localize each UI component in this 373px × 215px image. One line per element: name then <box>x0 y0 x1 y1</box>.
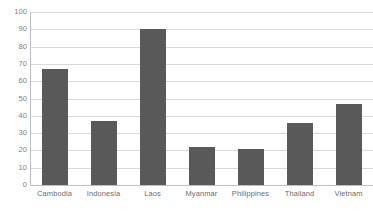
y-axis-tick-label: 80 <box>1 43 27 51</box>
bar[interactable] <box>189 147 215 185</box>
x-axis-baseline <box>30 185 373 186</box>
bar[interactable] <box>140 29 166 185</box>
bar-slot <box>324 12 373 185</box>
bar-slot <box>128 12 177 185</box>
bar-slot <box>226 12 275 185</box>
bar[interactable] <box>336 104 362 185</box>
y-axis-tick-label: 100 <box>1 8 27 16</box>
x-axis-category-labels: CambodiaIndonesiaLaosMyanmarPhilippinesT… <box>30 190 373 208</box>
y-axis-tick-label: 20 <box>1 147 27 155</box>
x-axis-category-label: Thailand <box>275 190 324 198</box>
x-axis-category-label: Myanmar <box>177 190 226 198</box>
bar-slot <box>30 12 79 185</box>
y-axis-tick-labels: 1009080706050403020100 <box>0 12 27 185</box>
y-axis-tick-label: 10 <box>1 164 27 172</box>
bar[interactable] <box>91 121 117 185</box>
y-axis-tick-label: 50 <box>1 95 27 103</box>
bars-layer <box>30 12 373 185</box>
y-axis-tick-label: 60 <box>1 77 27 85</box>
y-axis-tick-label: 40 <box>1 112 27 120</box>
x-axis-category-label: Indonesia <box>79 190 128 198</box>
y-axis-tick-label: 30 <box>1 129 27 137</box>
y-axis-tick-label: 0 <box>1 181 27 189</box>
y-axis-tick-label: 70 <box>1 60 27 68</box>
x-axis-category-label: Cambodia <box>30 190 79 198</box>
x-axis-category-label: Laos <box>128 190 177 198</box>
x-axis-category-label: Vietnam <box>324 190 373 198</box>
bar-chart: 1009080706050403020100 CambodiaIndonesia… <box>0 0 373 215</box>
y-axis-tick-label: 90 <box>1 26 27 34</box>
bar-slot <box>79 12 128 185</box>
bar-slot <box>275 12 324 185</box>
bar[interactable] <box>42 69 68 185</box>
bar[interactable] <box>287 123 313 185</box>
x-axis-category-label: Philippines <box>226 190 275 198</box>
bar-slot <box>177 12 226 185</box>
bar[interactable] <box>238 149 264 185</box>
